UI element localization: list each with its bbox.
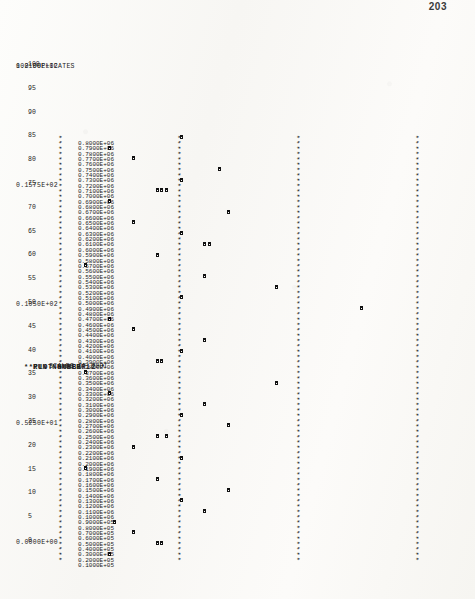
data-point <box>180 135 183 139</box>
x-tick-0: 0 <box>28 537 32 544</box>
x-tick-35: 35 <box>28 370 36 377</box>
scale-value-3: 0.1575E+02 <box>16 182 58 189</box>
data-point <box>113 520 116 524</box>
data-point <box>165 188 168 192</box>
data-point <box>132 530 135 534</box>
data-point <box>275 381 278 385</box>
data-point <box>156 477 159 481</box>
data-point <box>108 391 111 395</box>
x-tick-5: 5 <box>28 513 32 520</box>
data-point <box>180 178 183 182</box>
x-tick-15: 15 <box>28 466 36 473</box>
rotated-plot-canvas: **PLOT NUMBER 2** RUN NUMBER 1 SCALES OF… <box>0 0 475 599</box>
data-point <box>108 552 111 556</box>
data-point <box>160 188 163 192</box>
x-tick-70: 70 <box>28 204 36 211</box>
data-point <box>180 456 183 460</box>
data-point <box>84 370 87 374</box>
data-point <box>156 434 159 438</box>
data-point <box>180 498 183 502</box>
data-point <box>132 445 135 449</box>
data-point <box>132 327 135 331</box>
x-tick-25: 25 <box>28 418 36 425</box>
data-point <box>132 156 135 160</box>
x-tick-90: 90 <box>28 109 36 116</box>
scale-value-0: 0.0000E+00 <box>16 539 58 546</box>
data-point <box>160 541 163 545</box>
scale-value-2: 0.1050E+02 <box>16 301 58 308</box>
x-tick-45: 45 <box>28 323 36 330</box>
x-tick-85: 85 <box>28 132 36 139</box>
x-tick-10: 10 <box>28 489 36 496</box>
x-tick-60: 60 <box>28 251 36 258</box>
scale-value-1: 0.5250E+01 <box>16 420 58 427</box>
data-point <box>132 220 135 224</box>
x-tick-30: 30 <box>28 394 36 401</box>
data-point <box>203 274 206 278</box>
data-point <box>203 509 206 513</box>
x-tick-55: 55 <box>28 275 36 282</box>
data-point <box>203 338 206 342</box>
x-tick-65: 65 <box>28 228 36 235</box>
x-tick-100: 100 <box>28 61 40 68</box>
data-point <box>84 466 87 470</box>
x-tick-75: 75 <box>28 180 36 187</box>
data-point <box>108 317 111 321</box>
data-point <box>84 263 87 267</box>
data-point <box>180 349 183 353</box>
lineprinter-plot: **PLOT NUMBER 2** RUN NUMBER 1 SCALES OF… <box>0 0 475 599</box>
data-point <box>227 210 230 214</box>
data-point <box>156 188 159 192</box>
x-tick-40: 40 <box>28 347 36 354</box>
data-point <box>180 231 183 235</box>
data-point <box>156 359 159 363</box>
data-point <box>165 434 168 438</box>
data-point <box>227 488 230 492</box>
x-tick-20: 20 <box>28 442 36 449</box>
data-point <box>156 541 159 545</box>
data-point <box>203 242 206 246</box>
data-point <box>360 306 363 310</box>
x-tick-80: 80 <box>28 156 36 163</box>
data-point <box>156 253 159 257</box>
data-point <box>227 423 230 427</box>
data-point <box>180 295 183 299</box>
data-point <box>203 402 206 406</box>
data-point <box>108 146 111 150</box>
data-point <box>160 359 163 363</box>
data-point <box>180 413 183 417</box>
data-point <box>275 285 278 289</box>
data-point <box>108 199 111 203</box>
x-tick-50: 50 <box>28 299 36 306</box>
data-point <box>218 167 221 171</box>
x-tick-95: 95 <box>28 85 36 92</box>
data-point <box>208 242 211 246</box>
